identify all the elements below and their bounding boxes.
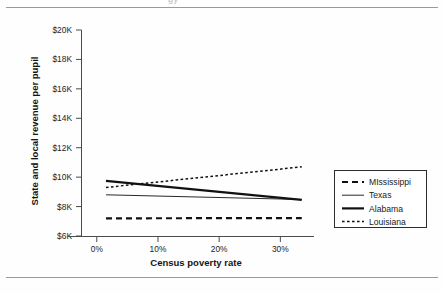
line-chart-figure: State and local revenue per pupil Census… [0,0,444,293]
y-tick-label: $10K [52,172,72,182]
chart-svg: State and local revenue per pupil Census… [0,0,444,293]
y-tick-label: $18K [52,54,72,64]
x-axis-ticks: 0%10%20%30% [91,237,290,255]
x-tick-label: 20% [211,244,228,254]
x-tick-label: 10% [150,244,167,254]
legend-label-louisiana: Louisiana [369,217,406,227]
y-tick-label: $8K [57,202,72,212]
y-tick-label: $16K [52,84,72,94]
x-tick-label: 30% [272,244,289,254]
y-tick-label: $12K [52,143,72,153]
y-tick-label: $14K [52,113,72,123]
legend-label-texas: Texas [369,190,391,200]
x-tick-label: 0% [91,244,104,254]
page-canvas: gy State and local revenue per pupil Cen… [0,0,444,293]
y-axis-title: State and local revenue per pupil [29,57,40,206]
series-lines [106,167,302,219]
y-axis-ticks: $6K$8K$10K$12K$14K$16K$18K$20K [52,25,81,241]
legend-label-alabama: Alabama [369,204,403,214]
y-tick-label: $20K [52,25,72,35]
legend-label-mississippi: MIssissippi [369,177,411,187]
x-axis-title: Census poverty rate [150,257,241,268]
